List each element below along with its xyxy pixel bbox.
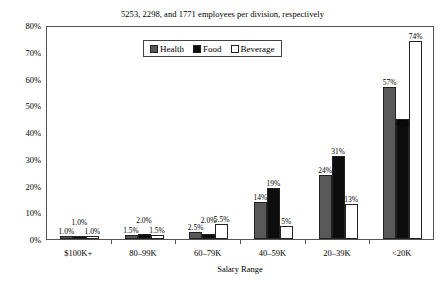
- chart-legend: Health Food Beverage: [143, 40, 282, 57]
- bar-value-label: 2.0%: [136, 217, 152, 225]
- legend-item-beverage: Beverage: [231, 44, 275, 54]
- bar-food-4: [332, 156, 345, 239]
- x-tick-mark: [111, 240, 112, 244]
- bar-value-label: 1.0%: [85, 228, 101, 236]
- bar-value-label: 19%: [266, 180, 280, 188]
- bar-beverage-4: [345, 204, 358, 239]
- plot-area: 1.0%1.0%1.0%1.5%2.0%1.5%2.5%2.0%5.5%14%1…: [46, 26, 434, 240]
- x-tick-label: 20–39K: [323, 248, 350, 258]
- x-tick-mark: [305, 240, 306, 244]
- bar-value-label: 74%: [409, 33, 423, 41]
- bar-beverage-0: [86, 236, 99, 239]
- bar-value-label: 57%: [383, 79, 397, 87]
- legend-swatch-health-icon: [150, 45, 158, 53]
- bar-health-1: [125, 235, 138, 239]
- bar-value-label: 5.5%: [214, 216, 230, 224]
- bar-beverage-2: [215, 224, 228, 239]
- chart-title: 5253, 2298, and 1771 employees per divis…: [0, 9, 445, 19]
- y-tick-label: 60%: [1, 75, 41, 84]
- bar-value-label: 2.5%: [188, 224, 204, 232]
- x-tick-mark: [369, 240, 370, 244]
- bar-food-0: [73, 236, 86, 239]
- bar-food-5: [396, 119, 409, 239]
- x-tick-mark: [175, 240, 176, 244]
- x-tick-mark: [240, 240, 241, 244]
- y-tick-label: 0%: [1, 236, 41, 245]
- y-tick-label: 70%: [1, 48, 41, 57]
- legend-item-food: Food: [193, 44, 222, 54]
- x-tick-label: $100K+: [64, 248, 92, 258]
- legend-swatch-food-icon: [193, 45, 201, 53]
- bar-beverage-5: [409, 41, 422, 239]
- y-tick-label: 50%: [1, 102, 41, 111]
- x-tick-label: <20K: [392, 248, 411, 258]
- bar-health-5: [383, 87, 396, 239]
- bar-value-label: 5%: [281, 218, 291, 226]
- bar-beverage-1: [151, 235, 164, 239]
- legend-swatch-beverage-icon: [231, 45, 239, 53]
- bar-value-label: 45%: [396, 120, 410, 128]
- bar-beverage-3: [280, 226, 293, 239]
- bar-value-label: 1.5%: [149, 227, 165, 235]
- bar-value-label: 1.0%: [59, 228, 75, 236]
- bar-value-label: 1.5%: [123, 227, 139, 235]
- bar-health-4: [319, 175, 332, 239]
- x-axis-title: Salary Range: [46, 264, 434, 274]
- bar-health-0: [60, 236, 73, 239]
- y-tick-label: 80%: [1, 22, 41, 31]
- legend-label-beverage: Beverage: [241, 44, 275, 54]
- bar-value-label: 24%: [318, 167, 332, 175]
- bar-health-3: [254, 202, 267, 239]
- y-tick-label: 20%: [1, 182, 41, 191]
- bar-food-2: [202, 234, 215, 239]
- bar-value-label: 13%: [344, 196, 358, 204]
- legend-label-food: Food: [203, 44, 222, 54]
- y-tick-label: 30%: [1, 155, 41, 164]
- bar-health-2: [189, 232, 202, 239]
- y-axis: 0%10%20%30%40%50%60%70%80%: [0, 0, 46, 290]
- legend-label-health: Health: [160, 44, 184, 54]
- y-tick-label: 10%: [1, 209, 41, 218]
- bar-chart: 5253, 2298, and 1771 employees per divis…: [0, 0, 445, 290]
- x-tick-label: 80–99K: [129, 248, 156, 258]
- bar-food-3: [267, 188, 280, 239]
- x-tick-label: 60–79K: [194, 248, 221, 258]
- legend-item-health: Health: [150, 44, 184, 54]
- bar-value-label: 31%: [331, 148, 345, 156]
- x-tick-label: 40–59K: [259, 248, 286, 258]
- bar-value-label: 14%: [253, 194, 267, 202]
- y-tick-label: 40%: [1, 129, 41, 138]
- bar-value-label: 1.0%: [72, 219, 88, 227]
